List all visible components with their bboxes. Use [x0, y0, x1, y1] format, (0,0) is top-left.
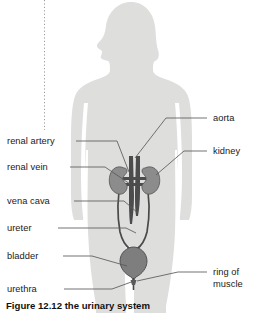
label-aorta: aorta — [213, 113, 234, 125]
label-ureter: ureter — [7, 223, 32, 235]
label-vena-cava: vena cava — [7, 196, 50, 208]
label-ring-of-muscle-line1: ring of — [213, 267, 239, 279]
label-renal-artery: renal artery — [7, 136, 55, 148]
label-ring-of-muscle-line2: muscle — [213, 279, 243, 291]
label-renal-vein: renal vein — [7, 162, 48, 174]
label-urethra: urethra — [7, 284, 37, 296]
figure-urinary-system: renal artery renal vein vena cava ureter… — [0, 0, 263, 313]
figure-caption: Figure 12.12 the urinary system — [6, 300, 150, 311]
label-bladder: bladder — [7, 251, 38, 263]
label-kidney: kidney — [213, 146, 240, 158]
